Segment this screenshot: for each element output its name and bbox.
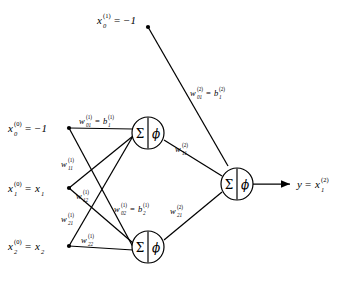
- label-input-bias-eq: =: [25, 122, 31, 134]
- weight-label-w21-2: w 21 (2): [170, 204, 183, 218]
- dot-input-bias: [67, 126, 71, 130]
- w11-2-sub: 11: [182, 150, 187, 156]
- w11-1-sub: 11: [68, 165, 73, 171]
- w12-1-sub: 12: [83, 197, 89, 203]
- w01-2-sup: (2): [197, 86, 203, 93]
- label-bias-layer1: x 0 (1) = −1: [96, 12, 136, 29]
- w01-1-eq: =: [95, 116, 100, 126]
- w02-1-base: w: [114, 204, 120, 214]
- w01-2-rhs-sub: 1: [219, 94, 222, 100]
- w21-2-sub: 21: [177, 212, 183, 218]
- label-input-2-sub: 2: [14, 248, 18, 255]
- label-input-2: x 2 (0) = x 2: [7, 238, 45, 255]
- w02-1-rhs-sup: (1): [143, 202, 149, 209]
- neuron-hidden-2[interactable]: Σ ϕ: [132, 231, 164, 263]
- weight-label-w02-1: w 02 (1) = b 2 (1): [114, 202, 149, 216]
- label-input-1-value: x: [34, 182, 40, 194]
- w11-1-sup: (1): [68, 157, 74, 164]
- edge-bias0-to-hidden1: [69, 128, 133, 129]
- label-input-bias: x 0 (0) = −1: [7, 120, 47, 137]
- neural-network-diagram: Σ ϕ Σ ϕ Σ ϕ x 0 (1) = −1 x 0 (0) = −1 x …: [0, 0, 348, 285]
- edge-hidden1-to-output: [164, 140, 222, 176]
- w01-2-base: w: [190, 88, 196, 98]
- label-output-value-sub: 1: [321, 186, 324, 193]
- label-bias-layer1-sub: 0: [103, 22, 107, 29]
- w02-1-sub: 02: [121, 210, 127, 216]
- weight-label-w22-1: w 22 (1): [81, 233, 94, 247]
- w02-1-sup: (1): [121, 202, 127, 209]
- w11-2-sup: (2): [182, 142, 188, 149]
- weight-label-w21-1: w 21 (1): [61, 212, 74, 226]
- label-input-bias-sub: 0: [14, 130, 18, 137]
- sigma-icon: Σ: [225, 178, 233, 192]
- label-output-value-sup: (2): [321, 176, 329, 184]
- label-input-2-value-sub: 2: [41, 248, 45, 255]
- w01-1-rhs-sub: 1: [108, 122, 111, 128]
- edge-x2-to-hidden2: [69, 246, 133, 250]
- label-input-bias-sup: (0): [14, 120, 22, 128]
- label-input-1-sub: 1: [14, 190, 17, 197]
- weight-label-w11-1: w 11 (1): [61, 157, 74, 171]
- w01-2-rhs-base: b: [214, 88, 218, 98]
- w22-1-sup: (1): [88, 233, 94, 240]
- w01-1-sub: 01: [86, 122, 92, 128]
- w01-1-base: w: [79, 116, 85, 126]
- w21-1-sub: 21: [68, 220, 74, 226]
- sigma-icon: Σ: [136, 127, 144, 141]
- label-output: y = x 1 (2): [296, 176, 329, 193]
- label-input-1: x 1 (0) = x 1: [7, 180, 44, 197]
- phi-icon: ϕ: [152, 241, 160, 255]
- label-output-eq: =: [305, 178, 311, 190]
- label-input-2-eq: =: [25, 240, 31, 252]
- w01-1-rhs-base: b: [103, 116, 107, 126]
- weight-label-w01-1: w 01 (1) = b 1 (1): [79, 114, 114, 128]
- w01-1-sup: (1): [86, 114, 92, 121]
- sigma-icon: Σ: [136, 241, 144, 255]
- phi-icon: ϕ: [152, 127, 160, 141]
- edge-x1-to-hidden1: [69, 136, 133, 188]
- w11-1-base: w: [61, 159, 67, 169]
- weight-label-w12-1: w 12 (1): [76, 189, 89, 203]
- edge-hidden2-to-output: [164, 192, 222, 240]
- label-output-base: y: [296, 178, 302, 190]
- label-bias-layer1-sup: (1): [103, 12, 111, 20]
- label-input-1-eq: =: [25, 182, 31, 194]
- w21-2-sup: (2): [177, 204, 183, 211]
- w02-1-rhs-sub: 2: [143, 210, 146, 216]
- weight-label-w11-2: w 11 (2): [175, 142, 188, 156]
- w01-1-rhs-sup: (1): [108, 114, 114, 121]
- label-bias-layer1-value: −1: [123, 14, 136, 26]
- label-bias-layer1-eq: =: [114, 14, 120, 26]
- label-input-1-value-sub: 1: [41, 190, 44, 197]
- label-input-1-base: x: [7, 182, 13, 194]
- label-bias-layer1-base: x: [96, 14, 102, 26]
- dot-input-2: [67, 244, 71, 248]
- phi-icon: ϕ: [241, 178, 249, 192]
- w01-2-sub: 01: [197, 94, 203, 100]
- w21-1-base: w: [61, 214, 67, 224]
- label-input-2-sup: (0): [14, 238, 22, 246]
- output-arrowhead: [281, 180, 290, 188]
- w12-1-sup: (1): [83, 189, 89, 196]
- label-input-2-base: x: [7, 240, 13, 252]
- neuron-output[interactable]: Σ ϕ: [221, 168, 253, 200]
- w01-2-rhs-sup: (2): [219, 86, 225, 93]
- label-input-bias-value: −1: [34, 122, 47, 134]
- w12-1-base: w: [76, 191, 82, 201]
- w21-1-sup: (1): [68, 212, 74, 219]
- label-output-value: x: [314, 178, 320, 190]
- dot-input-1: [67, 186, 71, 190]
- label-input-1-sup: (0): [14, 180, 22, 188]
- w01-2-eq: =: [206, 88, 211, 98]
- w02-1-eq: =: [130, 204, 135, 214]
- w21-2-base: w: [170, 206, 176, 216]
- dot-bias-layer1: [146, 25, 150, 29]
- w11-2-base: w: [175, 144, 181, 154]
- label-input-bias-base: x: [7, 122, 13, 134]
- neuron-hidden-1[interactable]: Σ ϕ: [132, 117, 164, 149]
- w22-1-base: w: [81, 235, 87, 245]
- label-input-2-value: x: [34, 240, 40, 252]
- w22-1-sub: 22: [88, 241, 94, 247]
- weight-label-w01-2: w 01 (2) = b 1 (2): [190, 86, 225, 100]
- w02-1-rhs-base: b: [138, 204, 142, 214]
